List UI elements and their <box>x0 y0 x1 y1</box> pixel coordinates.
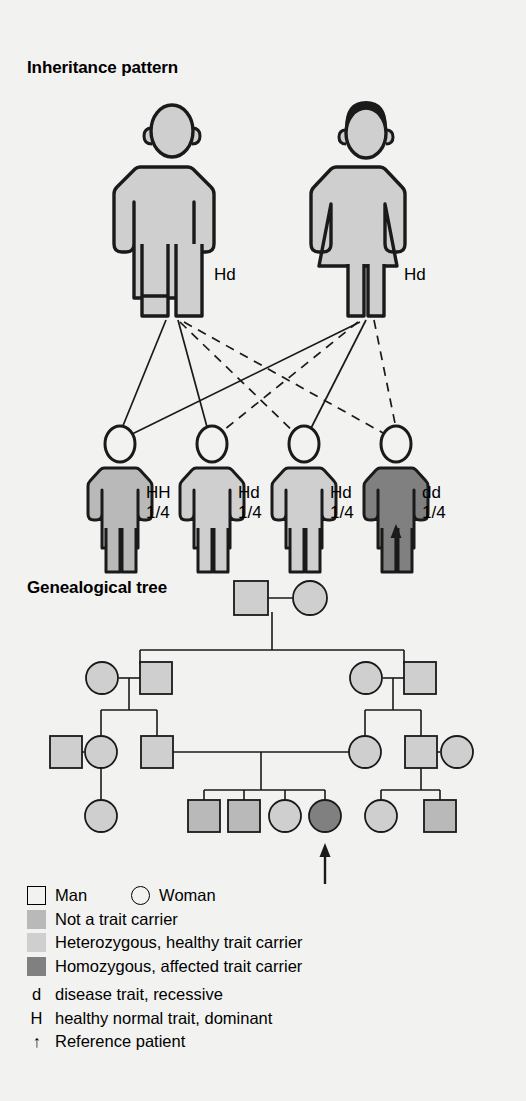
pedigree-gen2-spouse-male-right <box>404 662 436 694</box>
up-arrow-icon: ↑ <box>27 1032 46 1051</box>
legend-row-man-woman: Man Woman <box>27 884 497 908</box>
legend-label-reference-patient: Reference patient <box>55 1032 185 1051</box>
legend-row-homozygous: Homozygous, affected trait carrier <box>27 955 497 979</box>
pedigree-gen1-male <box>234 581 268 615</box>
legend-label-man: Man <box>55 886 87 905</box>
pedigree-gen3-spouse-female-outer-right <box>441 736 473 768</box>
pedigree-gen2-spouse-female-left <box>86 662 118 694</box>
swatch-homozygous-affected-icon <box>27 957 46 976</box>
circle-outline-icon <box>131 886 150 905</box>
pedigree-gen4-child-3-female <box>269 800 301 832</box>
legend: Man Woman Not a trait carrier Heterozygo… <box>27 884 497 1054</box>
legend-label-heterozygous: Heterozygous, healthy trait carrier <box>55 933 303 952</box>
swatch-not-carrier-icon <box>27 910 46 929</box>
pedigree-gen4-child-left-female <box>85 800 117 832</box>
pedigree-gen2-male-left <box>140 662 172 694</box>
pedigree-gen4-child-right-female <box>365 800 397 832</box>
legend-row-reference-patient: ↑ Reference patient <box>27 1030 497 1054</box>
legend-label-not-carrier: Not a trait carrier <box>55 910 178 929</box>
pedigree-gen2-female-right <box>350 662 382 694</box>
legend-label-disease-trait: disease trait, recessive <box>55 985 223 1004</box>
pedigree-gen3-spouse-male-outer-left <box>50 736 82 768</box>
pedigree-gen3-male-right <box>405 736 437 768</box>
legend-entry-woman: Woman <box>131 886 216 905</box>
pedigree-gen4-child-1-male <box>188 800 220 832</box>
swatch-heterozygous-icon <box>27 933 46 952</box>
legend-label-healthy-trait: healthy normal trait, dominant <box>55 1009 272 1028</box>
pedigree-gen4-child-2-male <box>228 800 260 832</box>
legend-label-homozygous: Homozygous, affected trait carrier <box>55 957 302 976</box>
pedigree-gen4-child-right-male <box>424 800 456 832</box>
pedigree-gen1-female <box>293 581 327 615</box>
legend-key-h: H <box>27 1009 46 1028</box>
reference-patient-arrow-pedigree <box>320 843 331 884</box>
pedigree-gen3-male-center-left <box>141 736 173 768</box>
square-outline-icon <box>27 886 46 905</box>
pedigree-connector-lines <box>67 598 440 800</box>
figure-root: Inheritance pattern Genealogical tree <box>0 0 526 1101</box>
legend-row-healthy-trait: H healthy normal trait, dominant <box>27 1007 497 1031</box>
pedigree-gen3-female-left <box>85 736 117 768</box>
legend-row-not-carrier: Not a trait carrier <box>27 908 497 932</box>
legend-entry-man: Man <box>27 886 87 905</box>
legend-key-d: d <box>27 985 46 1004</box>
legend-row-disease-trait: d disease trait, recessive <box>27 983 497 1007</box>
pedigree-gen4-child-4-female-affected <box>309 800 341 832</box>
legend-label-woman: Woman <box>159 886 216 905</box>
pedigree-gen3-female-center-right <box>349 736 381 768</box>
legend-row-heterozygous: Heterozygous, healthy trait carrier <box>27 931 497 955</box>
